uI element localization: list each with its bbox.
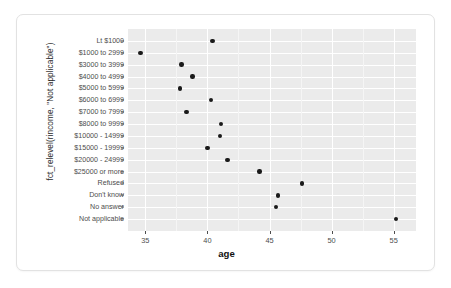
y-axis-tick-label: $6000 to 6999 <box>0 96 124 104</box>
data-point <box>219 122 223 126</box>
data-point <box>209 98 213 102</box>
data-point <box>190 74 194 78</box>
y-axis-tick-label: $10000 - 14999 <box>0 132 124 140</box>
x-axis-tick-label: 55 <box>374 236 414 245</box>
gridline-horizontal <box>128 160 416 161</box>
gridline-vertical <box>145 29 146 231</box>
x-axis-tick-label: 50 <box>312 236 352 245</box>
gridline-horizontal <box>128 100 416 101</box>
data-point <box>184 110 188 114</box>
gridline-horizontal <box>128 65 416 66</box>
gridline-horizontal <box>128 183 416 184</box>
x-axis-tick-mark <box>270 231 271 234</box>
y-axis-tick-label: Lt $1000 <box>0 37 124 45</box>
data-point <box>257 169 261 173</box>
y-axis-tick-mark <box>121 159 124 160</box>
y-axis-tick-mark <box>121 147 124 148</box>
data-point <box>276 193 280 197</box>
data-point <box>138 51 142 55</box>
gridline-vertical-minor <box>176 29 177 231</box>
gridline-vertical <box>207 29 208 231</box>
data-point <box>210 39 214 43</box>
x-axis-tick-mark <box>394 231 395 234</box>
gridline-horizontal <box>128 41 416 42</box>
gridline-vertical <box>332 29 333 231</box>
y-axis-tick-label: $4000 to 4999 <box>0 73 124 81</box>
data-point <box>179 62 183 66</box>
y-axis-tick-mark <box>121 40 124 41</box>
y-axis-tick-mark <box>121 64 124 65</box>
gridline-horizontal <box>128 77 416 78</box>
y-axis-tick-label: $8000 to 9999 <box>0 120 124 128</box>
y-axis-tick-mark <box>121 171 124 172</box>
y-axis-tick-label: Not applicable <box>0 215 124 223</box>
gridline-vertical <box>270 29 271 231</box>
y-axis-tick-label: $1000 to 2999 <box>0 49 124 57</box>
data-point <box>274 205 278 209</box>
y-axis-tick-mark <box>121 195 124 196</box>
y-axis-tick-mark <box>121 88 124 89</box>
gridline-horizontal <box>128 88 416 89</box>
gridline-horizontal <box>128 53 416 54</box>
x-axis-tick-mark <box>145 231 146 234</box>
y-axis-tick-mark <box>121 112 124 113</box>
x-axis-tick-label: 35 <box>125 236 165 245</box>
y-axis-tick-label: No answer <box>0 203 124 211</box>
scatter-plot: fct_relevel(rincome, "Not applicable") L… <box>17 15 436 272</box>
y-axis-tick-mark <box>121 52 124 53</box>
y-axis-tick-mark <box>121 124 124 125</box>
gridline-horizontal <box>128 207 416 208</box>
y-axis-tick-label: $20000 - 24999 <box>0 156 124 164</box>
data-point <box>218 134 222 138</box>
y-axis-tick-mark <box>121 219 124 220</box>
data-point <box>300 181 304 185</box>
x-axis-tick-mark <box>207 231 208 234</box>
y-axis-tick-mark <box>121 100 124 101</box>
x-axis-tick-mark <box>332 231 333 234</box>
data-point <box>178 86 182 90</box>
gridline-horizontal <box>128 219 416 220</box>
gridline-horizontal <box>128 112 416 113</box>
x-axis-tick-label: 40 <box>187 236 227 245</box>
gridline-vertical <box>394 29 395 231</box>
y-axis-tick-label: $5000 to 5999 <box>0 84 124 92</box>
gridline-horizontal <box>128 195 416 196</box>
gridline-horizontal <box>128 148 416 149</box>
data-point <box>205 146 209 150</box>
y-axis-tick-mark <box>121 135 124 136</box>
gridline-horizontal <box>128 172 416 173</box>
y-axis-tick-label: $15000 - 19999 <box>0 144 124 152</box>
y-axis-tick-mark <box>121 183 124 184</box>
y-axis-tick-label: $25000 or more <box>0 168 124 176</box>
gridline-vertical-minor <box>363 29 364 231</box>
data-point <box>394 217 398 221</box>
y-axis-tick-label: Refused <box>0 179 124 187</box>
y-axis-tick-label: Don't know <box>0 191 124 199</box>
y-axis-tick-label: $3000 to 3999 <box>0 61 124 69</box>
y-axis-tick-mark <box>121 76 124 77</box>
x-axis-title: age <box>17 248 436 259</box>
y-axis-tick-label: $7000 to 7999 <box>0 108 124 116</box>
plot-panel <box>128 29 416 231</box>
gridline-horizontal <box>128 136 416 137</box>
plot-card: fct_relevel(rincome, "Not applicable") L… <box>16 14 435 271</box>
y-axis-tick-mark <box>121 207 124 208</box>
x-axis-tick-label: 45 <box>250 236 290 245</box>
data-point <box>225 158 229 162</box>
gridline-vertical-minor <box>301 29 302 231</box>
gridline-horizontal <box>128 124 416 125</box>
gridline-vertical-minor <box>238 29 239 231</box>
